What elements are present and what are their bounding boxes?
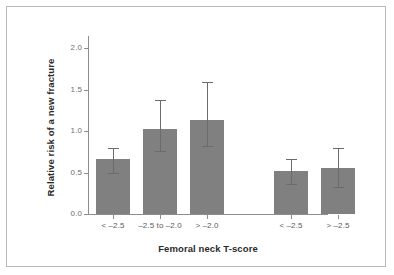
x-tick-label: < –2.5 <box>279 221 302 230</box>
x-axis-title: Femoral neck T-score <box>88 243 328 254</box>
x-tick-label: –2.5 to –2.0 <box>138 221 181 230</box>
x-tick-mark <box>160 215 161 219</box>
error-bar-stem <box>113 148 114 173</box>
error-bar-cap-lower <box>333 187 344 188</box>
error-bar-stem <box>160 100 161 151</box>
y-tick-mark <box>84 131 88 132</box>
error-bar-cap-lower <box>202 146 213 147</box>
y-tick-mark <box>84 90 88 91</box>
x-tick-label: < –2.5 <box>101 221 124 230</box>
y-axis-title: Relative risk of a new fracture <box>45 38 56 218</box>
error-bar-cap-upper <box>202 82 213 83</box>
x-tick-mark <box>113 215 114 219</box>
x-tick-mark <box>338 215 339 219</box>
error-bar-cap-upper <box>286 159 297 160</box>
x-tick-mark <box>291 215 292 219</box>
error-bar-stem <box>291 159 292 185</box>
y-tick-mark <box>84 214 88 215</box>
error-bar-cap-lower <box>155 151 166 152</box>
y-axis-line <box>88 36 89 215</box>
error-bar-cap-lower <box>286 184 297 185</box>
error-bar-cap-upper <box>333 148 344 149</box>
error-bar-stem <box>207 82 208 147</box>
x-tick-label: > –2.0 <box>195 221 218 230</box>
x-tick-label: > –2.5 <box>326 221 349 230</box>
error-bar-cap-upper <box>108 148 119 149</box>
bar-chart: 0.00.51.01.52.0 < –2.5–2.5 to –2.0> –2.0… <box>0 0 394 275</box>
error-bar-cap-upper <box>155 100 166 101</box>
error-bar-cap-lower <box>108 173 119 174</box>
y-tick-mark <box>84 48 88 49</box>
error-bar-stem <box>338 148 339 187</box>
y-tick-mark <box>84 173 88 174</box>
x-axis-line <box>88 214 328 215</box>
x-tick-mark <box>207 215 208 219</box>
